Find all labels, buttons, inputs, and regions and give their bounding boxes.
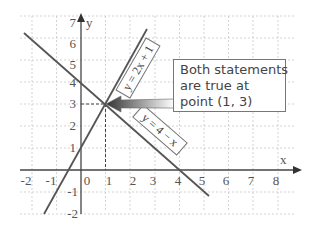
y-axis-label: y <box>86 15 93 30</box>
x-axis-label: x <box>280 152 287 167</box>
svg-text:6: 6 <box>70 36 77 51</box>
line-y-4-minus-x <box>24 33 209 196</box>
graph: -2 -1 0 1 2 3 4 5 6 7 8 -2 -1 1 2 3 4 5 … <box>0 0 313 227</box>
svg-text:-2: -2 <box>21 173 32 188</box>
y-tick-labels: -2 -1 1 2 3 4 5 6 7 <box>67 15 78 221</box>
svg-text:1: 1 <box>70 140 77 155</box>
svg-text:6: 6 <box>223 173 230 188</box>
svg-text:7: 7 <box>248 173 255 188</box>
svg-text:3: 3 <box>70 96 77 111</box>
svg-text:2: 2 <box>70 118 77 133</box>
svg-text:3: 3 <box>150 173 157 188</box>
svg-text:y = 4 − x: y = 4 − x <box>139 110 181 149</box>
svg-text:5: 5 <box>199 173 206 188</box>
x-axis-arrow-icon <box>293 166 302 174</box>
y-axis-arrow-icon <box>77 13 85 22</box>
svg-text:7: 7 <box>70 15 77 30</box>
svg-text:-2: -2 <box>67 206 78 221</box>
intersection-guides <box>81 104 106 170</box>
callout-line-1: Both statements <box>180 62 285 78</box>
svg-text:0: 0 <box>84 173 91 188</box>
equation-label-2: y = 4 − x <box>133 105 187 155</box>
callout-line-3: point (1, 3) <box>180 94 285 110</box>
svg-text:-1: -1 <box>67 184 78 199</box>
callout-line-2: are true at <box>180 78 285 94</box>
svg-text:1: 1 <box>106 173 113 188</box>
svg-text:4: 4 <box>175 173 182 188</box>
svg-text:-1: -1 <box>46 173 57 188</box>
svg-text:8: 8 <box>273 173 280 188</box>
svg-text:5: 5 <box>70 57 77 72</box>
callout-box: Both statements are true at point (1, 3) <box>173 59 286 112</box>
svg-text:2: 2 <box>130 173 137 188</box>
